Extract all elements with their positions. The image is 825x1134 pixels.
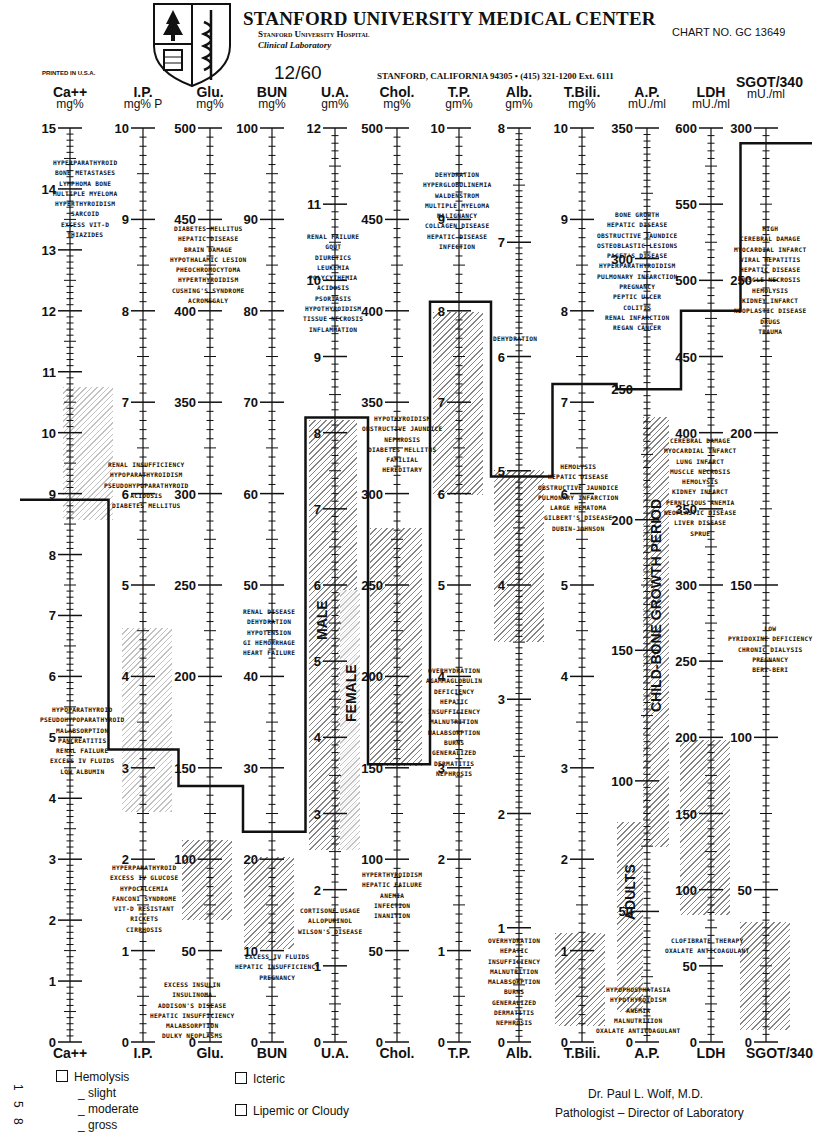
svg-text:8: 8 (561, 304, 568, 319)
svg-text:13: 13 (42, 243, 56, 258)
col-foot-glu: Glu. (180, 1047, 240, 1060)
svg-text:10: 10 (431, 121, 445, 136)
svg-text:7: 7 (438, 395, 445, 410)
svg-text:350: 350 (611, 121, 633, 136)
svg-text:7: 7 (561, 395, 568, 410)
ann-tp-low: OVERHYDRATIONAGAMMAGLOBULINDEFICIENCYHEP… (426, 666, 482, 779)
side-number-1: 1 (11, 1084, 25, 1091)
ann-ca-low: HYPOPARATHYROIDPSEUDOHYPOPARATHYROIDMALA… (40, 705, 125, 777)
svg-text:200: 200 (361, 669, 383, 684)
ann-ldh-high: CEREBRAL DAMAGEMYOCARDIAL INFARCTLUNG IN… (664, 436, 736, 539)
ann-ip-low: HYPERPARATHYROIDEXCESS IV GLUCOSEHYPOCAL… (110, 863, 178, 935)
ann-sgot-low: LOWPYRIDOXINE DEFICIENCYCHRONIC DIALYSIS… (728, 624, 813, 675)
svg-text:4: 4 (314, 730, 322, 745)
legend-lipemic: Lipemic or Cloudy (235, 1104, 349, 1118)
ann-bun-high: RENAL DISEASEDEHYDRATIONHYPOTENSIONGI HE… (243, 607, 295, 658)
svg-text:9: 9 (561, 212, 568, 227)
legend-slight: _ slight (78, 1086, 116, 1100)
svg-text:9: 9 (122, 212, 129, 227)
lipemic-checkbox[interactable] (235, 1104, 247, 1116)
svg-text:5: 5 (561, 578, 568, 593)
svg-text:5: 5 (438, 578, 445, 593)
svg-text:400: 400 (361, 304, 383, 319)
svg-text:10: 10 (42, 426, 56, 441)
svg-text:50: 50 (244, 578, 258, 593)
svg-text:5: 5 (122, 578, 129, 593)
svg-text:6: 6 (49, 669, 56, 684)
svg-text:3: 3 (498, 692, 505, 707)
ann-sgot-high: HIGHCEREBRAL DAMAGEMYOCARDIAL INFARCTVIR… (734, 224, 806, 337)
ann-ua-low: CORTISONE USAGEALLOPURINOLWILSON'S DISEA… (298, 906, 362, 937)
legend-gross: _ gross (78, 1118, 117, 1132)
col-foot-bun: BUN (242, 1047, 302, 1060)
ann-tbili-high: HEMOLYSISHEPATIC DISEASEOBSTRUCTIVE JAUN… (538, 462, 619, 534)
ann-tp-high: DEHYDRATIONHYPERGLOBULINEMIAWALDENSTROMM… (423, 170, 491, 252)
axes-layer: 0123456789101112131415012345678910050100… (0, 0, 825, 1134)
col-foot-alb: Alb. (489, 1047, 549, 1060)
svg-text:300: 300 (730, 121, 752, 136)
ann-ca-high: HYPERPARATHYROIDBONE METASTASESLYMPHOMA … (53, 158, 117, 240)
svg-text:450: 450 (361, 212, 383, 227)
svg-text:150: 150 (675, 807, 697, 822)
svg-text:4: 4 (122, 669, 130, 684)
col-foot-chol: Chol. (367, 1047, 427, 1060)
svg-text:200: 200 (174, 669, 196, 684)
svg-text:4: 4 (498, 578, 506, 593)
svg-text:9: 9 (314, 350, 321, 365)
side-number-8: 8 (11, 1118, 25, 1125)
svg-text:100: 100 (675, 883, 697, 898)
icteric-checkbox[interactable] (235, 1072, 247, 1084)
svg-text:100: 100 (236, 121, 258, 136)
svg-text:15: 15 (42, 121, 56, 136)
ann-ldh-low: CLOFIBRATE THERAPYOXALATE ANTICOAGULANT (665, 936, 750, 957)
col-foot-ap: A.P. (617, 1047, 677, 1060)
svg-text:150: 150 (730, 578, 752, 593)
svg-text:7: 7 (314, 502, 321, 517)
svg-text:7: 7 (122, 395, 129, 410)
svg-text:2: 2 (314, 883, 321, 898)
svg-text:10: 10 (115, 121, 129, 136)
ann-ip-high: RENAL INSUFFICIENCYHYPOPARATHYROIDISMPSE… (104, 460, 189, 511)
svg-text:30: 30 (244, 761, 258, 776)
ann-ua-high: RENAL FAILUREGOUTDIURETICSLEUKEMIAPOLYCY… (303, 232, 363, 335)
pathologist-title: Pathologist – Director of Laboratory (555, 1106, 744, 1120)
svg-text:500: 500 (174, 121, 196, 136)
svg-text:11: 11 (307, 197, 321, 212)
svg-text:12: 12 (42, 304, 56, 319)
svg-text:12: 12 (307, 121, 321, 136)
svg-text:70: 70 (244, 395, 258, 410)
svg-text:1: 1 (49, 974, 56, 989)
col-foot-ip: I.P. (113, 1047, 173, 1060)
svg-text:100: 100 (361, 852, 383, 867)
svg-text:11: 11 (42, 365, 56, 380)
col-foot-sgot: SGOT/340 (746, 1047, 786, 1060)
pathologist-name: Dr. Paul L. Wolf, M.D. (588, 1087, 703, 1101)
svg-text:2: 2 (561, 852, 568, 867)
svg-text:100: 100 (730, 730, 752, 745)
side-number-5: 5 (11, 1101, 25, 1108)
svg-text:1: 1 (438, 944, 445, 959)
svg-text:500: 500 (361, 121, 383, 136)
col-foot-tbili: T.Bili. (552, 1047, 612, 1060)
svg-text:20: 20 (244, 852, 258, 867)
svg-text:4: 4 (49, 791, 57, 806)
svg-text:300: 300 (675, 578, 697, 593)
svg-text:3: 3 (49, 852, 56, 867)
ann-bun-low: EXCESS IV FLUIDSHEPATIC INSUFFICIENCYPRE… (235, 952, 320, 983)
svg-text:350: 350 (174, 395, 196, 410)
svg-text:450: 450 (675, 350, 697, 365)
ann-ap-low: HYPOPHOSPHATASIAHYPOTHYROIDISMANEMIAMALN… (596, 985, 681, 1036)
svg-text:4: 4 (561, 669, 569, 684)
svg-text:2: 2 (498, 807, 505, 822)
svg-text:300: 300 (361, 487, 383, 502)
svg-text:50: 50 (182, 944, 196, 959)
col-foot-ca: Ca++ (40, 1047, 100, 1060)
svg-text:150: 150 (611, 643, 633, 658)
svg-text:5: 5 (314, 654, 321, 669)
svg-text:250: 250 (361, 578, 383, 593)
svg-text:8: 8 (498, 121, 505, 136)
col-foot-ua: U.A. (305, 1047, 365, 1060)
hemolysis-checkbox[interactable] (56, 1070, 68, 1082)
svg-text:2: 2 (49, 913, 56, 928)
svg-text:3: 3 (314, 807, 321, 822)
